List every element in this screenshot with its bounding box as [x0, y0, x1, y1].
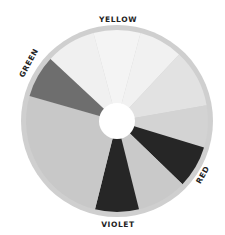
color-wheel-graphic: YELLOW GREEN RED VIOLET [0, 0, 225, 235]
label-violet: VIOLET [101, 220, 135, 229]
label-yellow: YELLOW [98, 15, 137, 24]
wheel-hub [99, 103, 135, 139]
color-wheel: YELLOW GREEN RED VIOLET [0, 0, 225, 235]
